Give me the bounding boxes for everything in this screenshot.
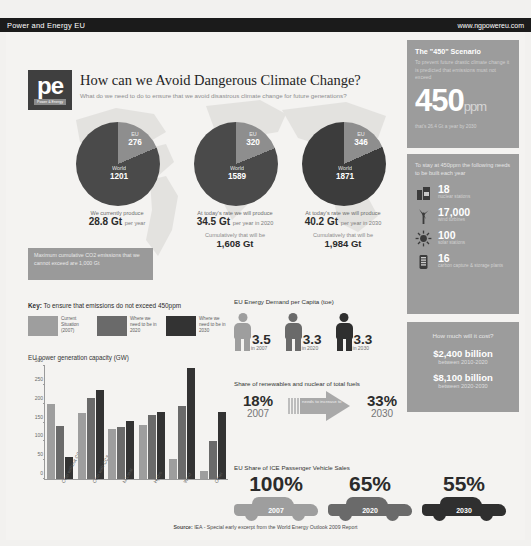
y-tick: 250 — [35, 376, 45, 382]
demand-value: 3.3 — [303, 334, 322, 345]
build-label: nuclear stations — [438, 194, 470, 200]
key-item-label: Current Situation (2007) — [61, 316, 91, 335]
scenario-footnote: that's 26.4 Gt a year by 2030 — [415, 124, 511, 129]
key-item: Where we need to be in 2030 — [166, 316, 229, 336]
scenario-panel: The "450" Scenario To prevent future dra… — [407, 40, 519, 148]
bar — [87, 398, 95, 479]
demand-value: 3.3 — [354, 334, 373, 345]
key-item: Where we need to be in 2020 — [97, 316, 160, 336]
bar — [108, 429, 116, 479]
build-value: 17,000 — [438, 207, 470, 217]
solar-station-icon — [415, 230, 432, 247]
wind-turbine-icon — [415, 207, 432, 224]
renewables-share-section: Share of renewables and nuclear of total… — [234, 380, 414, 421]
build-label: solar stations — [438, 240, 465, 246]
bar-group: Coal without CCS — [47, 366, 73, 479]
share-to-year: 2030 — [356, 408, 408, 419]
bar — [56, 426, 64, 479]
ice-sales-figures: 100% 2007 65% 2020 55% — [234, 473, 524, 521]
key-item-label: Where we need to be in 2020 — [130, 316, 160, 335]
share-arrow-text: needs to increase to — [302, 399, 342, 405]
scenario-body: To prevent future drastic climate change… — [415, 59, 511, 82]
pie-slices: EU 346 World 1871 — [302, 122, 386, 206]
carbon-capture-icon — [415, 253, 432, 270]
brand-label: Power and Energy EU — [7, 21, 85, 30]
bar — [148, 415, 156, 479]
pie-unit-2020: per year in 2020 — [233, 220, 273, 226]
pie-world-label: World 1871 — [320, 166, 370, 181]
pie-value-2020: 34.5 Gt — [197, 216, 230, 227]
max-emissions-note: Maximum cumulative CO2 emissions that we… — [28, 248, 153, 280]
build-row-nuclear: 18 nuclear stations — [415, 184, 511, 201]
build-row-wind: 17,000 wind turbines — [415, 207, 511, 224]
build-value: 18 — [438, 184, 470, 194]
share-from-year: 2007 — [234, 408, 282, 419]
key-swatch-2007 — [28, 316, 58, 336]
key-swatch-2030 — [166, 316, 196, 336]
pie-value-2030: 40.2 Gt — [305, 216, 338, 227]
scenario-title: The "450" Scenario — [415, 47, 511, 56]
person-2007: 3.5 in 2007 — [234, 313, 271, 351]
pie-unit-current: per year — [125, 220, 146, 226]
pie-slices: EU 320 World 1589 — [194, 122, 278, 206]
build-label: carbon capture & storage plants — [438, 263, 503, 269]
infographic-page: Power and Energy EU www.ngpowereu.com pe… — [0, 0, 531, 546]
car-cell-2007: 100% 2007 — [234, 473, 318, 521]
ice-year: 2007 — [234, 507, 318, 514]
person-icon — [234, 313, 251, 351]
bar-group: Hydro — [139, 366, 165, 479]
bar-chart: 050100150200250300 Coal without CCSCoal … — [28, 366, 228, 496]
bar — [169, 459, 177, 479]
key-swatch-2020 — [97, 316, 127, 336]
cost-panel: How much will it cost? $2,400 billion be… — [407, 322, 519, 412]
bar-chart-axes: 050100150200250300 Coal without CCSCoal … — [44, 366, 228, 480]
build-panel: To stay at 450ppm the following needs to… — [407, 154, 519, 314]
logo-subtitle: Power & Energy — [34, 99, 66, 105]
cost-title: How much will it cost? — [415, 331, 511, 340]
bar — [117, 427, 125, 479]
pe-logo: pe Power & Energy — [28, 70, 72, 110]
ice-pct: 55% — [422, 473, 506, 494]
build-title: To stay at 450ppm the following needs to… — [415, 161, 511, 178]
build-row-ccs: 16 carbon capture & storage plants — [415, 253, 511, 270]
source-label: Source: — [173, 524, 192, 530]
source-note: Source: IEA - Special early excerpt from… — [6, 524, 525, 530]
pie-caption-2030: At today's rate we will produce 40.2 Gt … — [278, 210, 408, 249]
pie-eu-label: EU 320 — [236, 132, 270, 147]
bar — [209, 441, 217, 479]
car-cell-2030: 55% 2030 — [422, 473, 506, 521]
car-icon: 2030 — [422, 495, 506, 521]
person-2020: 3.3 in 2020 — [285, 313, 322, 351]
bar — [157, 412, 165, 479]
key-item: Current Situation (2007) — [28, 316, 91, 336]
build-label: wind turbines — [438, 217, 470, 223]
top-bar: Power and Energy EU www.ngpowereu.com — [0, 18, 531, 32]
cost-amount-2: $8,100 billion — [415, 372, 511, 383]
nuclear-station-icon — [415, 184, 432, 201]
bar — [218, 412, 226, 479]
bar-group: Wind — [169, 366, 195, 479]
key-legend: Key: To ensure that emissions do not exc… — [28, 302, 223, 336]
share-from-pct: 18% — [234, 393, 282, 408]
page-title: How can we Avoid Dangerous Climate Chang… — [80, 72, 361, 89]
person-icon — [336, 313, 353, 351]
cost-period-2: between 2020-2030 — [415, 383, 511, 389]
logo-mark: pe — [37, 75, 63, 97]
demand-value: 3.5 — [252, 334, 271, 345]
pie-cumulative-2030: 1,984 Gt — [278, 238, 408, 249]
bar — [78, 413, 86, 479]
website-url[interactable]: www.ngpowereu.com — [457, 22, 524, 29]
energy-demand-section: EU Energy Demand per Capita (toe) 3.5 in… — [234, 298, 406, 351]
bar — [178, 406, 186, 479]
bar — [139, 425, 147, 479]
energy-demand-figures: 3.5 in 2007 3.3 in 2020 — [234, 313, 406, 351]
renewables-share-row: 18% 2007 needs to increase to 33% 2030 — [234, 391, 414, 421]
bar — [200, 471, 208, 479]
ice-pct: 100% — [234, 473, 318, 494]
scenario-number: 450 — [415, 83, 464, 118]
pie-slices: EU 276 World 1201 — [76, 122, 160, 206]
build-value: 100 — [438, 230, 465, 240]
energy-demand-title: EU Energy Demand per Capita (toe) — [234, 298, 406, 305]
pie-value-current: 28.8 Gt — [89, 216, 122, 227]
pie-caption-current: We currently produce 28.8 Gt per year — [52, 210, 182, 227]
